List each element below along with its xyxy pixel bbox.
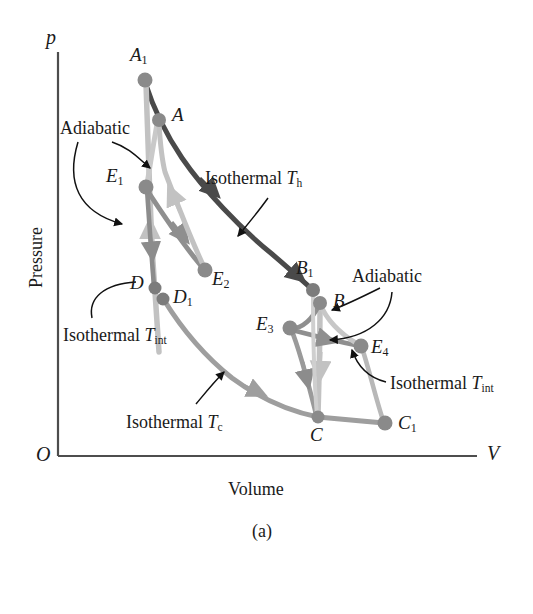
point-label-E4: E4 <box>371 336 389 360</box>
point-label-D-letter: D <box>130 272 144 293</box>
marker-E3 <box>283 321 298 336</box>
point-label-E2-sub: 2 <box>224 277 230 291</box>
point-label-E3-letter: E <box>256 313 268 334</box>
point-label-D1: D1 <box>173 286 193 310</box>
point-label-A1-letter: A <box>130 44 142 65</box>
annotation-isothermal-tc-symbol: T <box>207 412 217 432</box>
point-label-C1: C1 <box>398 412 417 436</box>
state-point-markers <box>138 73 393 431</box>
x-axis-label: Volume <box>228 479 284 500</box>
arrow-tint-left <box>150 232 152 252</box>
arrow-b-c <box>320 352 321 372</box>
annotation-adiabatic-left-text: Adiabatic <box>60 118 130 138</box>
point-label-C1-sub: 1 <box>411 421 417 435</box>
annotation-isothermal-tc: Isothermal Tc <box>126 412 223 433</box>
point-label-D: D <box>130 272 144 294</box>
marker-C1 <box>378 416 393 431</box>
curve-isotherm-tc <box>164 300 384 423</box>
marker-D <box>149 282 162 295</box>
annotation-isothermal-tint-right-sub: int <box>482 382 494 394</box>
point-label-E2: E2 <box>212 268 230 292</box>
point-label-B-letter: B <box>333 290 345 311</box>
point-label-B: B <box>333 290 345 312</box>
marker-A1 <box>138 73 153 88</box>
marker-E1 <box>139 180 154 195</box>
marker-C <box>312 411 325 424</box>
point-label-C1-letter: C <box>398 412 411 433</box>
annotation-adiabatic-right-text: Adiabatic <box>352 266 422 286</box>
annotation-isothermal-th-symbol: T <box>286 168 296 188</box>
marker-B1 <box>306 283 320 297</box>
marker-A <box>152 113 166 127</box>
point-label-C-letter: C <box>310 424 323 445</box>
marker-E4 <box>354 339 369 354</box>
annotation-isothermal-th: Isothermal Th <box>205 168 302 189</box>
point-label-A-letter: A <box>172 104 184 125</box>
x-axis-symbol: V <box>487 442 499 465</box>
annotation-isothermal-th-sub: h <box>297 177 303 189</box>
annotation-adiabatic-right: Adiabatic <box>352 266 422 287</box>
point-label-E2-letter: E <box>212 268 224 289</box>
point-label-B1-sub: 1 <box>308 266 314 280</box>
annotation-isothermal-tint-left-text: Isothermal <box>63 325 140 345</box>
y-axis-symbol: p <box>46 26 56 49</box>
marker-E2 <box>198 263 213 278</box>
point-label-E4-sub: 4 <box>383 345 389 359</box>
annotation-isothermal-tc-sub: c <box>218 421 223 433</box>
origin-symbol: O <box>36 443 50 466</box>
marker-B <box>313 296 327 310</box>
curve-adiabatic-b-c <box>318 304 321 415</box>
point-label-A: A <box>172 104 184 126</box>
point-label-E1-sub: 1 <box>118 174 124 188</box>
annotation-isothermal-tint-left: Isothermal Tint <box>63 325 167 346</box>
point-label-D1-letter: D <box>173 286 187 307</box>
annotation-adiabatic-left: Adiabatic <box>60 118 130 139</box>
pv-diagram-figure: p V O Pressure Volume (a) A1 A E1 E2 D D… <box>0 0 533 614</box>
figure-caption: (a) <box>252 521 272 542</box>
point-label-E3: E3 <box>256 313 274 337</box>
curve-adiabatic-e2-a <box>159 124 205 269</box>
point-label-B1-letter: B <box>296 257 308 278</box>
axes <box>58 52 477 456</box>
point-label-A1-sub: 1 <box>142 53 148 67</box>
point-label-C: C <box>310 424 323 446</box>
annotation-isothermal-tint-right-symbol: T <box>471 373 481 393</box>
y-axis-label: Pressure <box>26 227 47 288</box>
annotation-isothermal-tc-text: Isothermal <box>126 412 203 432</box>
point-label-B1: B1 <box>296 257 314 281</box>
point-label-E1: E1 <box>106 165 124 189</box>
annotation-isothermal-tint-right-text: Isothermal <box>390 373 467 393</box>
leader-isothermal-tc <box>196 372 224 404</box>
marker-D1 <box>157 293 170 306</box>
arrow-tint-right <box>303 362 307 380</box>
point-label-E3-sub: 3 <box>268 322 274 336</box>
point-label-E1-letter: E <box>106 165 118 186</box>
annotation-isothermal-th-text: Isothermal <box>205 168 282 188</box>
annotation-isothermal-tint-right: Isothermal Tint <box>390 373 494 394</box>
annotation-isothermal-tint-left-sub: int <box>155 334 167 346</box>
leader-isothermal-th <box>238 198 268 236</box>
annotation-isothermal-tint-left-symbol: T <box>144 325 154 345</box>
point-label-E4-letter: E <box>371 336 383 357</box>
point-label-A1: A1 <box>130 44 148 68</box>
point-label-D1-sub: 1 <box>187 295 193 309</box>
